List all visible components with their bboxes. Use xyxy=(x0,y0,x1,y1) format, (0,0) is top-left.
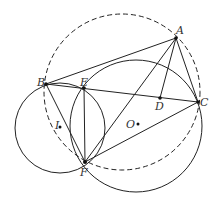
point-f xyxy=(83,160,87,164)
circle-o xyxy=(70,60,202,192)
label-o: O xyxy=(126,118,135,131)
point-o xyxy=(137,123,140,126)
segment-bf xyxy=(46,84,85,162)
label-i: I xyxy=(54,119,60,132)
points xyxy=(44,36,200,164)
segments xyxy=(46,38,198,162)
segment-ac xyxy=(176,38,198,102)
label-d: D xyxy=(154,100,164,113)
label-b: B xyxy=(36,76,45,89)
label-c: C xyxy=(200,96,209,109)
segment-ad xyxy=(160,38,176,98)
geometry-diagram: A B C D E F O I xyxy=(0,0,214,205)
segment-ab xyxy=(46,38,176,84)
segment-ef xyxy=(84,88,85,162)
label-f: F xyxy=(79,166,88,179)
label-e: E xyxy=(79,76,88,89)
segment-bc xyxy=(46,84,198,102)
label-a: A xyxy=(175,24,184,37)
